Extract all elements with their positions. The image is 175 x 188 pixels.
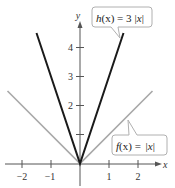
x-tick-label: 2 xyxy=(136,171,141,182)
h-callout-label: h(x) = 3|x| xyxy=(96,12,144,25)
h-callout: h(x) = 3|x| xyxy=(92,7,152,38)
y-tick-label: 2 xyxy=(68,100,73,111)
y-axis-arrow-icon xyxy=(78,21,83,28)
x-tick-label: −1 xyxy=(45,171,56,182)
x-axis: x −2 −1 1 2 xyxy=(5,159,168,183)
y-tick-label: 3 xyxy=(68,71,73,82)
y-tick-label: 4 xyxy=(68,42,73,53)
y-axis-label: y xyxy=(75,10,81,21)
x-axis-arrow-icon xyxy=(155,162,162,167)
f-callout: f(x) = |x| xyxy=(112,120,167,155)
x-axis-label: x xyxy=(162,159,168,170)
x-tick-label: 1 xyxy=(107,171,112,182)
f-callout-label: f(x) = |x| xyxy=(116,140,155,153)
absolute-value-graph: x −2 −1 1 2 y 2 3 4 h(x) = 3|x| f(x) = |… xyxy=(0,0,175,188)
x-tick-label: −2 xyxy=(17,171,28,182)
